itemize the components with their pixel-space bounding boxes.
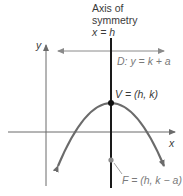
directrix-label: D: y = k + a [117,56,171,67]
x-axis-label: x [169,138,174,149]
focus-point [108,157,113,162]
focus-label: F = (h, k − a) [122,175,182,186]
y-axis-label: y [36,40,41,51]
vertex-label: V = (h, k) [115,89,158,100]
axis-title-line1: Axis of [92,3,124,14]
axis-title-line2: symmetry [92,15,138,26]
axis-equation: x = h [92,27,115,38]
focus-leader-line [114,163,122,174]
vertex-point [108,100,114,106]
